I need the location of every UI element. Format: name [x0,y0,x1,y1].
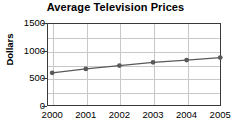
data-point-marker: 2001: 670 [83,67,88,72]
x-tick-label: 2002 [102,109,136,120]
series-line [52,58,220,73]
chart-container: Average Television Prices Dollars 050010… [0,0,231,127]
y-tick-label: 1000 [1,45,45,56]
data-point-marker: 2002: 730 [117,63,122,68]
y-tick-label: 500 [1,72,45,83]
data-series-layer: 2000: 6002001: 6702002: 7302003: 7902004… [47,23,221,106]
data-point-marker: 2005: 875 [218,55,223,60]
x-tick-label: 2004 [170,109,204,120]
x-tick-label: 2003 [136,109,170,120]
x-tick-label: 2001 [69,109,103,120]
y-axis-tick-labels: 050010001500 [0,0,45,127]
data-point-marker: 2004: 830 [184,58,189,63]
x-tick-label: 2005 [203,109,231,120]
y-tick-label: 1500 [1,17,45,28]
data-point-marker: 2003: 790 [151,60,156,65]
y-tick-mark [42,106,47,107]
data-point-marker: 2000: 600 [50,70,55,75]
x-tick-label: 2000 [35,109,69,120]
